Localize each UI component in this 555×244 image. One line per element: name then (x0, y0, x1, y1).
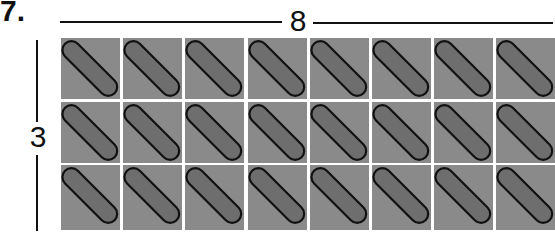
capsule-icon (61, 38, 120, 99)
capsule-icon (434, 38, 493, 99)
capsule-icon (123, 102, 182, 163)
capsule-icon (372, 165, 431, 226)
tile (248, 165, 307, 230)
tile (496, 165, 555, 230)
tile (496, 102, 555, 163)
tile (434, 38, 493, 99)
capsule-icon (434, 165, 493, 226)
capsule-icon (310, 165, 369, 226)
tile (310, 38, 369, 99)
tile (185, 38, 244, 99)
capsule-icon (372, 102, 431, 163)
tile (372, 38, 431, 99)
capsule-icon (496, 38, 555, 99)
tile (372, 165, 431, 230)
capsule-icon (185, 102, 244, 163)
tile (496, 38, 555, 99)
tile (123, 38, 182, 99)
problem-number: 7. (0, 0, 25, 28)
capsule-icon (434, 102, 493, 163)
tile (310, 165, 369, 230)
capsule-icon (372, 38, 431, 99)
capsule-icon (310, 102, 369, 163)
tile (185, 102, 244, 163)
capsule-icon (248, 38, 307, 99)
height-dimension-line-top (36, 40, 38, 122)
capsule-icon (61, 102, 120, 163)
capsule-icon (123, 165, 182, 226)
tile (61, 165, 120, 230)
width-label: 8 (283, 4, 313, 38)
capsule-icon (185, 38, 244, 99)
capsule-icon (123, 38, 182, 99)
tile (185, 165, 244, 230)
tile (123, 165, 182, 230)
tile (123, 102, 182, 163)
capsule-icon (248, 165, 307, 226)
tile (434, 165, 493, 230)
tile (61, 102, 120, 163)
capsule-icon (496, 165, 555, 226)
capsule-icon (248, 102, 307, 163)
width-dimension-line-right (313, 22, 553, 24)
width-dimension-line-left (60, 21, 282, 23)
tile (434, 102, 493, 163)
height-dimension-line-bottom (36, 155, 38, 231)
capsule-icon (61, 165, 120, 226)
tile (248, 102, 307, 163)
capsule-icon (310, 38, 369, 99)
tile (310, 102, 369, 163)
capsule-icon (496, 102, 555, 163)
capsule-icon (185, 165, 244, 226)
tile (248, 38, 307, 99)
tile (61, 38, 120, 99)
height-label: 3 (24, 120, 52, 154)
tile (372, 102, 431, 163)
